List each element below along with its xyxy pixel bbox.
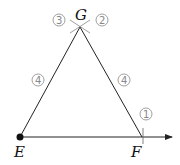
svg-text:4: 4 — [121, 75, 127, 86]
label-g: G — [75, 6, 87, 24]
svg-text:2: 2 — [99, 15, 105, 26]
step-marker-4-right: 4 — [118, 74, 130, 86]
segment-fg — [80, 27, 142, 137]
label-f: F — [130, 143, 142, 161]
step-marker-3: 3 — [53, 14, 65, 26]
svg-text:1: 1 — [143, 109, 149, 120]
step-marker-1: 1 — [140, 108, 152, 120]
construction-diagram: G E F 3 2 4 4 1 — [0, 0, 180, 165]
segment-eg — [20, 27, 80, 137]
svg-text:3: 3 — [56, 15, 62, 26]
step-marker-2: 2 — [96, 14, 108, 26]
point-e — [17, 134, 24, 141]
step-marker-4-left: 4 — [32, 74, 44, 86]
label-e: E — [13, 143, 25, 161]
svg-text:4: 4 — [35, 75, 41, 86]
